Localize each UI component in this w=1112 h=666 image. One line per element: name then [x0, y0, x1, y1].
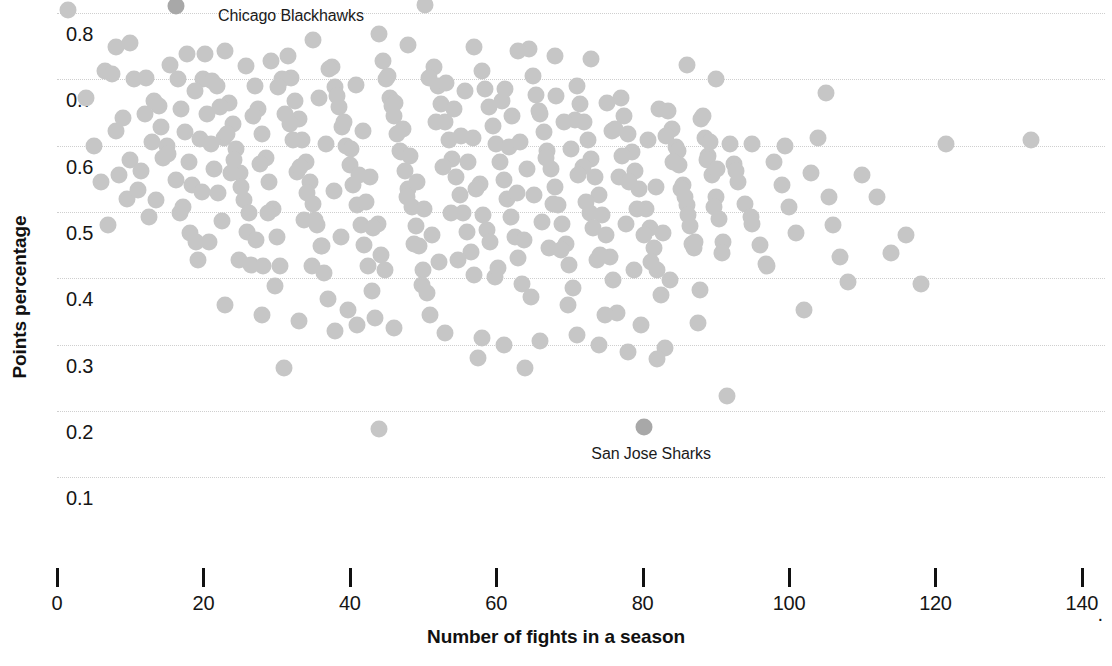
- data-point: [217, 296, 234, 313]
- data-point: [147, 191, 164, 208]
- x-axis-title: Number of fights in a season: [0, 626, 1112, 648]
- data-point: [912, 275, 929, 292]
- data-point: [193, 184, 210, 201]
- data-point: [1022, 132, 1039, 149]
- data-point: [325, 182, 342, 199]
- data-point: [647, 178, 664, 195]
- data-point: [643, 253, 660, 270]
- y-tick-label: 0.8: [49, 23, 93, 46]
- data-point: [583, 51, 600, 68]
- x-tick-label: 60: [485, 592, 507, 615]
- data-point: [530, 103, 547, 120]
- data-point: [180, 154, 197, 171]
- data-point: [179, 46, 196, 63]
- data-point: [706, 198, 723, 215]
- data-point: [111, 167, 128, 184]
- data-point: [262, 52, 279, 69]
- data-point: [621, 174, 638, 191]
- data-point: [777, 137, 794, 154]
- data-point: [59, 1, 76, 18]
- data-point: [619, 344, 636, 361]
- data-point: [795, 302, 812, 319]
- data-point: [467, 180, 484, 197]
- data-point: [788, 225, 805, 242]
- data-point: [252, 156, 269, 173]
- data-point: [839, 273, 856, 290]
- data-point: [356, 237, 373, 254]
- data-point: [524, 67, 541, 84]
- data-point: [606, 121, 623, 138]
- data-point: [707, 71, 724, 88]
- data-point: [824, 217, 841, 234]
- data-point: [766, 154, 783, 171]
- data-point: [371, 421, 388, 438]
- data-point: [535, 124, 552, 141]
- data-point: [253, 125, 270, 142]
- data-point: [372, 246, 389, 263]
- data-point: [305, 31, 322, 48]
- data-point: [457, 83, 474, 100]
- data-point: [649, 351, 666, 368]
- data-point: [431, 253, 448, 270]
- data-point: [162, 56, 179, 73]
- data-point: [217, 43, 234, 60]
- data-point: [728, 162, 745, 179]
- plot-area: 0.10.20.30.40.50.60.70.8Chicago Blackhaw…: [0, 0, 1112, 560]
- data-point: [442, 205, 459, 222]
- data-point: [495, 172, 512, 189]
- data-point: [570, 167, 587, 184]
- data-point: [140, 209, 157, 226]
- data-point: [240, 205, 257, 222]
- data-point: [537, 149, 554, 166]
- x-tick-label: 0: [52, 592, 63, 615]
- data-point: [436, 324, 453, 341]
- data-point: [347, 76, 364, 93]
- data-point: [832, 248, 849, 265]
- data-point: [691, 282, 708, 299]
- data-point: [319, 291, 336, 308]
- data-point: [546, 178, 563, 195]
- data-point: [450, 251, 467, 268]
- data-point: [577, 193, 594, 210]
- data-point: [802, 165, 819, 182]
- data-point: [204, 72, 221, 89]
- x-tick-mark: [56, 568, 59, 587]
- x-tick-mark: [934, 568, 937, 587]
- data-point: [477, 81, 494, 98]
- x-tick-label: 40: [339, 592, 361, 615]
- y-tick-label: 0.6: [49, 156, 93, 179]
- x-tick-label: 140: [1066, 592, 1098, 615]
- data-point: [562, 140, 579, 157]
- data-point: [173, 101, 190, 118]
- data-point: [182, 225, 199, 242]
- data-point: [211, 99, 228, 116]
- x-tick-mark: [495, 568, 498, 587]
- data-point: [201, 233, 218, 250]
- data-point: [169, 71, 186, 88]
- data-point: [640, 132, 657, 149]
- data-point: [145, 92, 162, 109]
- data-point: [152, 119, 169, 136]
- data-point: [744, 136, 761, 153]
- data-point: [701, 134, 718, 151]
- data-point: [504, 107, 521, 124]
- data-point: [496, 81, 513, 98]
- data-point: [100, 217, 117, 234]
- data-point: [245, 107, 262, 124]
- data-point: [773, 177, 790, 194]
- data-point: [416, 200, 433, 217]
- scatter-chart: 0.10.20.30.40.50.60.70.8Chicago Blackhaw…: [0, 0, 1112, 666]
- data-point: [230, 251, 247, 268]
- data-point: [328, 87, 345, 104]
- data-point: [122, 34, 139, 51]
- data-point: [167, 172, 184, 189]
- data-point: [584, 220, 601, 237]
- data-point: [409, 174, 426, 191]
- data-point: [275, 359, 292, 376]
- data-point: [592, 246, 609, 263]
- point-annotation: Chicago Blackhawks: [218, 7, 364, 25]
- data-point: [662, 271, 679, 288]
- data-point: [268, 229, 285, 246]
- data-point: [757, 255, 774, 272]
- data-point: [299, 185, 316, 202]
